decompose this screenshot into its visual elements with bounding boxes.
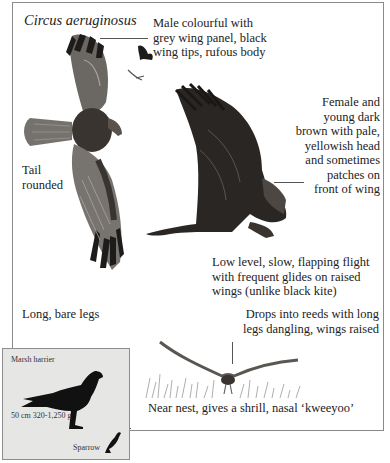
annotation-tail: Tail rounded — [22, 163, 63, 192]
annotation-flight: Low level, slow, flapping flight with fr… — [212, 255, 370, 299]
inset-measurements: 50 cm 320-1,250 g — [11, 411, 71, 421]
annotation-male: Male colourful with grey wing panel, bla… — [153, 16, 267, 60]
leader-line-male — [100, 38, 148, 39]
size-comparison-inset: Marsh harrier 50 cm 320-1,250 g Sparrow — [2, 348, 130, 460]
harrier-overhead-illustration — [24, 34, 124, 270]
annotation-legs: Long, bare legs — [22, 307, 99, 322]
distant-harrier-silhouettes — [128, 45, 153, 80]
species-name: Circus aeruginosus — [24, 12, 137, 29]
harrier-dropping-illustration — [160, 342, 298, 394]
annotation-female: Female and young dark brown with pale, y… — [258, 95, 380, 197]
annotation-call: Near nest, gives a shrill, nasal ‘kweeyo… — [148, 401, 354, 416]
harrier-silhouette-icon — [3, 349, 131, 461]
leader-line-drops — [232, 342, 233, 364]
inset-sparrow-label: Sparrow — [73, 443, 100, 453]
annotation-drops: Drops into reeds with long legs dangling… — [222, 307, 379, 336]
